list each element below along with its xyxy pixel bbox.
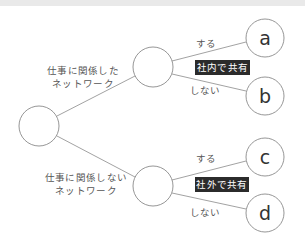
leaf-node-c: c [246,138,284,176]
work-network-label-line2: ネットワーク [52,78,114,89]
leaf-node-b: b [246,77,284,115]
edge-label-share-no-bottom: しない [190,207,221,218]
nonwork-network-label-line2: ネットワーク [55,185,117,196]
edge-label-share-yes-top: する [196,38,217,49]
internal-share-tag-text: 社内で共有 [197,62,249,73]
edge-label-share-no-top: しない [190,85,221,96]
external-share-tag-text: 社外で共有 [196,179,248,190]
leaf-node-a: a [246,19,284,57]
leaf-label-c: c [260,146,270,168]
work-network-label-line1: 仕事に関係した [47,65,119,76]
edge-root-to-nonwork [57,136,135,177]
leaf-node-d: d [246,194,284,232]
nonwork-network-label-line1: 仕事に関係しない [45,172,127,183]
decision-tree-diagram: a b c d 仕事に関係した ネットワーク 仕事に関係しない ネットワーク す… [0,0,305,248]
leaf-label-d: d [259,202,271,224]
work-network-node [133,47,173,87]
external-share-tag: 社外で共有 [195,177,249,192]
edge-label-share-yes-bottom: する [196,153,217,164]
internal-share-tag: 社内で共有 [195,60,250,75]
leaf-label-a: a [259,27,271,49]
root-node [19,106,59,146]
leaf-label-b: b [259,85,271,107]
nonwork-network-node [133,166,173,206]
